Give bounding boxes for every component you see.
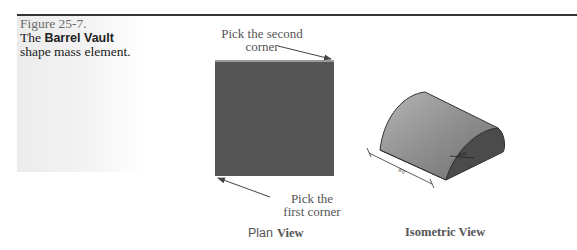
arrow-first-corner (218, 178, 270, 197)
arrow-second-corner (278, 46, 331, 59)
length-dimension-text: 8'0" (398, 167, 408, 176)
drawing-layer: 8'0" 4'0" (0, 0, 577, 250)
barrel-vault-model (380, 92, 505, 180)
